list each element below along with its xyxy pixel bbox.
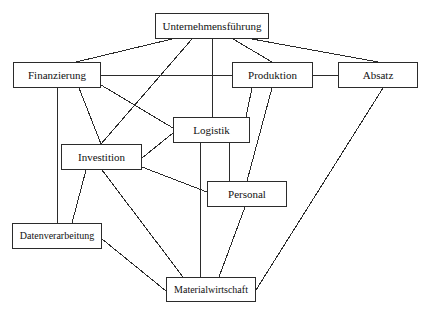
node-label-investition: Investition xyxy=(75,152,128,163)
edge-unternehmensfuehrung-to-produktion xyxy=(233,39,272,62)
node-label-unternehmensfuehrung: Unternehmensführung xyxy=(160,21,265,32)
organizational-diagram: UnternehmensführungFinanzierungProduktio… xyxy=(0,0,428,313)
node-label-personal: Personal xyxy=(225,189,269,200)
node-investition[interactable]: Investition xyxy=(61,144,142,170)
node-finanzierung[interactable]: Finanzierung xyxy=(13,62,101,88)
node-personal[interactable]: Personal xyxy=(207,181,287,207)
node-label-finanzierung: Finanzierung xyxy=(25,70,89,81)
node-datenverarbeitung[interactable]: Datenverarbeitung xyxy=(12,223,102,249)
edge-datenverarbeitung-to-materialwirtschaft xyxy=(102,239,166,291)
edge-unternehmensfuehrung-to-absatz xyxy=(252,39,378,62)
edge-produktion-to-personal xyxy=(247,88,272,181)
node-materialwirtschaft[interactable]: Materialwirtschaft xyxy=(166,277,256,302)
edge-investition-to-materialwirtschaft xyxy=(102,170,183,277)
node-label-materialwirtschaft: Materialwirtschaft xyxy=(171,285,251,295)
edge-investition-to-personal xyxy=(142,167,207,192)
edge-finanzierung-to-logistik xyxy=(101,85,173,128)
node-label-logistik: Logistik xyxy=(190,125,233,136)
node-label-datenverarbeitung: Datenverarbeitung xyxy=(17,231,97,241)
node-label-absatz: Absatz xyxy=(360,70,397,81)
node-label-produktion: Produktion xyxy=(245,70,300,81)
edge-personal-to-materialwirtschaft xyxy=(219,207,245,277)
edge-unternehmensfuehrung-to-finanzierung xyxy=(76,39,172,62)
edge-investition-to-logistik xyxy=(142,133,173,158)
node-unternehmensfuehrung[interactable]: Unternehmensführung xyxy=(155,13,269,39)
node-absatz[interactable]: Absatz xyxy=(338,62,418,88)
edge-finanzierung-to-investition xyxy=(79,88,101,144)
node-logistik[interactable]: Logistik xyxy=(173,117,250,143)
node-produktion[interactable]: Produktion xyxy=(232,62,313,88)
edge-produktion-to-logistik xyxy=(246,88,252,117)
edge-investition-to-datenverarbeitung xyxy=(72,170,86,223)
